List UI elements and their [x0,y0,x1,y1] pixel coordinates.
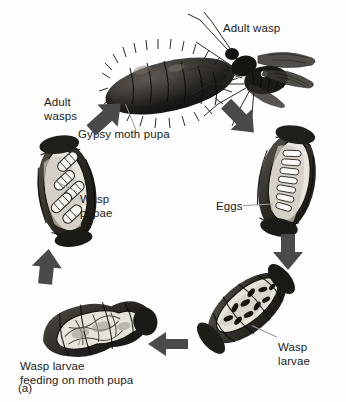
label-wasp-pupae: Wasp pupae [80,193,112,220]
arrow-to-adult-wasps [84,96,128,138]
arrow-to-feeding [146,331,190,357]
arrow-to-wasp-pupae [30,242,64,288]
stage-pupa-with-eggs [242,126,332,238]
label-wasp-larvae: Wasp larvae [278,341,310,368]
label-wasp-larvae-feeding: Wasp larvae feeding on moth pupa [20,360,133,387]
label-adult-wasp: Adult wasp [223,22,280,36]
life-cycle-figure: Adult wasp Gypsy moth pupa [0,0,346,402]
figure-caption: (a) [18,382,32,394]
arrow-to-eggs [219,97,261,139]
label-eggs: Eggs [216,200,243,214]
stage-pupa-with-wasp-pupae [22,136,112,248]
arrow-to-larvae [270,232,306,274]
label-adult-wasps: Adult wasps [44,96,77,123]
